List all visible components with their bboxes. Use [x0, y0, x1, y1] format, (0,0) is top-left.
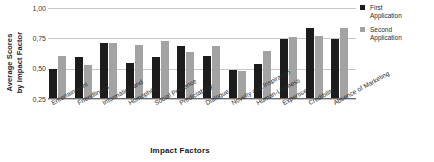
- bar-group: [330, 7, 356, 98]
- bar: [306, 28, 314, 98]
- legend-label: First Application: [370, 4, 402, 19]
- chart-legend: First ApplicationSecond Application: [360, 4, 434, 48]
- bar: [49, 69, 57, 98]
- x-axis-title: Impact Factors: [0, 146, 360, 155]
- bar: [109, 43, 117, 98]
- legend-swatch: [360, 27, 365, 32]
- y-axis-tick-labels: 1,000,750,500,25: [22, 0, 46, 162]
- bar-group: [48, 7, 74, 98]
- legend-swatch: [360, 5, 365, 10]
- x-axis-tick-labels: EntertainmentFriendlinessInformation and…: [48, 100, 368, 150]
- legend-label: Second Application: [370, 26, 402, 41]
- y-axis-tick-label: 0,75: [32, 35, 46, 42]
- bar: [135, 45, 143, 98]
- bar: [229, 70, 237, 98]
- legend-entry: Second Application: [360, 26, 434, 42]
- y-axis-title: Average Scores by Impact Factor: [5, 15, 24, 111]
- bar: [289, 37, 297, 98]
- y-axis-tick-label: 0,50: [32, 65, 46, 72]
- y-axis-tick-label: 1,00: [32, 5, 46, 12]
- bar-chart: Average Scores by Impact Factor 1,000,75…: [0, 0, 434, 162]
- bar: [161, 41, 169, 98]
- bar-group: [151, 7, 177, 98]
- bar-group: [305, 7, 331, 98]
- bar: [212, 46, 220, 98]
- y-axis-tick-label: 0,25: [32, 96, 46, 103]
- bar-group: [228, 7, 254, 98]
- bar: [315, 36, 323, 98]
- legend-entry: First Application: [360, 4, 434, 20]
- bar: [340, 28, 348, 98]
